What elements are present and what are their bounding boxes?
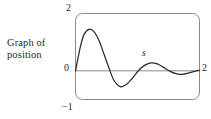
x-axis-label-right: 2 bbox=[202, 63, 207, 73]
curve-name-label: s bbox=[142, 48, 146, 58]
y-axis-label-top: 2 bbox=[66, 3, 71, 13]
y-axis-label-origin: 0 bbox=[64, 63, 69, 73]
plot-box-border bbox=[76, 14, 200, 100]
position-curve bbox=[76, 29, 200, 87]
y-axis-label-bottom: −1 bbox=[62, 102, 73, 112]
caption-line-1: Graph of bbox=[7, 37, 69, 49]
caption-line-2: position bbox=[7, 49, 69, 61]
position-graph-figure: Graph of position 2 0 −1 2 s bbox=[0, 0, 211, 119]
figure-caption: Graph of position bbox=[7, 37, 69, 61]
